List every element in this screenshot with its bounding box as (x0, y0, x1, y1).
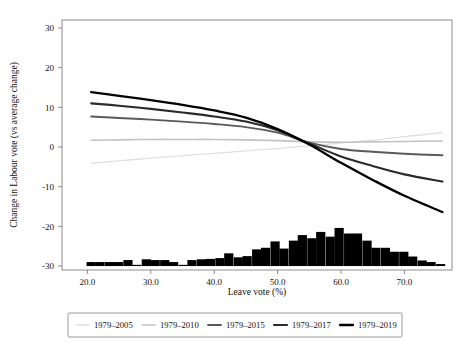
x-axis-title: Leave vote (%) (228, 287, 287, 298)
histogram-bar (335, 228, 344, 266)
histogram-bar (169, 262, 178, 266)
y-tick-label-4: -10 (42, 182, 54, 192)
legend-label-2: 1979–2015 (226, 320, 265, 330)
x-tick-label-0: 20.0 (79, 277, 95, 287)
histogram-bar (390, 252, 399, 266)
histogram-bar (261, 248, 270, 266)
histogram-bar (252, 249, 261, 266)
y-tick-label-1: 20 (45, 63, 55, 73)
histogram-bar (371, 248, 380, 266)
y-axis-title: Change in Labour vote (vs average change… (9, 62, 20, 228)
histogram-bar (215, 258, 224, 266)
legend-label-4: 1979–2019 (358, 320, 397, 330)
histogram-bar (381, 248, 390, 266)
histogram-bar (426, 262, 435, 266)
y-tick-label-3: 0 (50, 142, 55, 152)
histogram-bar (270, 241, 279, 266)
histogram-bar (399, 252, 408, 266)
histogram-bar (418, 260, 427, 266)
legend-label-1: 1979–2010 (160, 320, 199, 330)
histogram-bar (123, 260, 132, 266)
histogram-bar (132, 265, 141, 266)
histogram-bar (187, 260, 196, 266)
histogram-bar (151, 260, 160, 266)
histogram-bar (179, 265, 188, 266)
histogram-bar (316, 232, 325, 266)
labour-vote-vs-leave-vote-chart: 3020100-10-20-30 20.030.040.050.060.070.… (0, 0, 471, 350)
histogram-bar (344, 233, 353, 266)
legend-label-3: 1979–2017 (292, 320, 331, 330)
histogram-bar (243, 256, 252, 266)
x-tick-label-1: 30.0 (143, 277, 159, 287)
histogram-bar (114, 262, 123, 266)
histogram-bar (408, 257, 417, 267)
x-tick-label-4: 60.0 (333, 277, 349, 287)
histogram-bar (436, 264, 445, 266)
histogram-bar (160, 260, 169, 266)
x-tick-label-2: 40.0 (206, 277, 222, 287)
histogram-bar (289, 241, 298, 266)
legend-label-0: 1979–2005 (94, 320, 133, 330)
histogram-bar (87, 262, 96, 266)
histogram-bar (326, 237, 335, 266)
histogram-bar (298, 235, 307, 266)
histogram-bar (234, 257, 243, 266)
histogram-bar (307, 238, 316, 266)
x-tick-label-5: 70.0 (397, 277, 413, 287)
histogram-bar (105, 262, 114, 266)
y-tick-label-2: 10 (45, 103, 55, 113)
y-tick-label-5: -20 (42, 222, 54, 232)
histogram-bar (142, 259, 151, 266)
x-tick-label-3: 50.0 (270, 277, 286, 287)
histogram-bar (95, 262, 104, 266)
y-tick-label-6: -30 (42, 261, 54, 271)
histogram-bar (206, 259, 215, 266)
y-tick-label-0: 30 (45, 23, 55, 33)
histogram-bar (279, 249, 288, 266)
histogram-bar (362, 241, 371, 266)
histogram-bar (224, 253, 233, 266)
histogram-bar (197, 259, 206, 266)
histogram-bar (353, 233, 362, 266)
figure-background (0, 0, 471, 350)
